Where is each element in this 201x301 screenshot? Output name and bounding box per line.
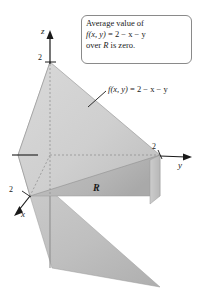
surface-right-side-face [150, 155, 160, 204]
x-axis-line [19, 196, 30, 210]
region-label-R: R [93, 183, 100, 194]
y-axis-arrowhead [183, 154, 192, 161]
x-axis-tick-label-2: 2 [9, 186, 13, 194]
surface-fn-equation: = 2 − x − y [128, 84, 168, 94]
callout-fn-args: (x, y) [88, 29, 105, 39]
callout-line-3-pre: over [86, 40, 103, 50]
callout-line-3-post: is zero. [108, 40, 135, 50]
z-axis-arrowhead [47, 30, 54, 39]
y-axis-label: y [178, 161, 182, 170]
x-axis-label: x [21, 210, 25, 219]
y-axis-tick-label-2: 2 [152, 143, 156, 151]
surface-equation-label: f(x, y) = 2 − x − y [108, 85, 168, 94]
callout-text: Average value of f(x, y) = 2 − x − y ove… [86, 18, 192, 51]
surface-fn-args: (x, y) [110, 84, 127, 94]
y-axis-line [160, 156, 186, 157]
z-axis-tick-label-2: 2 [38, 54, 42, 62]
callout-line-1: Average value of [86, 18, 144, 28]
z-axis-label: z [41, 27, 45, 36]
callout-fn-equation: = 2 − x − y [106, 29, 146, 39]
